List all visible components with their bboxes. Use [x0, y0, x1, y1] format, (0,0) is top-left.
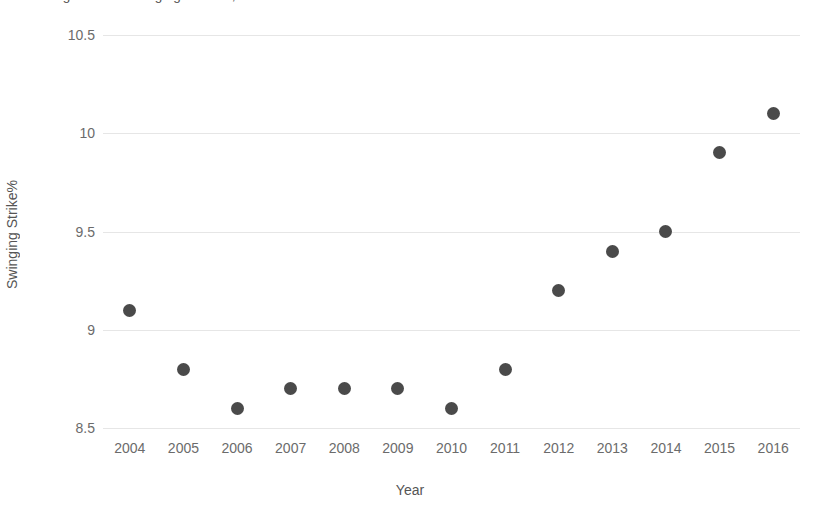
- x-tick-label: 2010: [436, 440, 467, 456]
- x-tick-label: 2005: [168, 440, 199, 456]
- x-tick-label: 2012: [543, 440, 574, 456]
- x-tick-label: 2016: [758, 440, 789, 456]
- data-point[interactable]: [552, 284, 565, 297]
- x-tick-label: 2004: [114, 440, 145, 456]
- data-point[interactable]: [177, 363, 190, 376]
- gridline: [103, 232, 800, 233]
- x-tick-label: 2006: [221, 440, 252, 456]
- y-tick-label: 10: [79, 125, 95, 141]
- data-point[interactable]: [499, 363, 512, 376]
- gridline: [103, 428, 800, 429]
- x-tick-label: 2008: [329, 440, 360, 456]
- x-tick-label: 2009: [382, 440, 413, 456]
- y-tick-label: 9.5: [76, 224, 95, 240]
- data-point[interactable]: [713, 146, 726, 159]
- data-point[interactable]: [338, 382, 351, 395]
- gridline: [103, 330, 800, 331]
- y-tick-label: 8.5: [76, 420, 95, 436]
- data-point[interactable]: [659, 225, 672, 238]
- y-tick-label: 10.5: [68, 27, 95, 43]
- x-tick-label: 2013: [597, 440, 628, 456]
- chart-title: MLB League-Wide Swinging Strike%, 2004-2…: [0, 0, 820, 6]
- x-axis-title: Year: [0, 482, 820, 498]
- y-tick-label: 9: [87, 322, 95, 338]
- plot-area: [103, 35, 800, 428]
- gridline: [103, 133, 800, 134]
- data-point[interactable]: [445, 402, 458, 415]
- data-point[interactable]: [391, 382, 404, 395]
- data-point[interactable]: [123, 304, 136, 317]
- data-point[interactable]: [284, 382, 297, 395]
- x-tick-label: 2015: [704, 440, 735, 456]
- data-point[interactable]: [231, 402, 244, 415]
- data-point[interactable]: [606, 245, 619, 258]
- x-axis-tick-labels: 2004200520062007200820092010201120122013…: [0, 440, 820, 462]
- x-tick-label: 2014: [650, 440, 681, 456]
- y-axis-tick-labels: 10.5109.598.5: [0, 35, 95, 428]
- x-tick-label: 2007: [275, 440, 306, 456]
- gridline: [103, 35, 800, 36]
- data-point[interactable]: [767, 107, 780, 120]
- x-tick-label: 2011: [490, 440, 520, 456]
- scatter-chart: MLB League-Wide Swinging Strike%, 2004-2…: [0, 0, 820, 530]
